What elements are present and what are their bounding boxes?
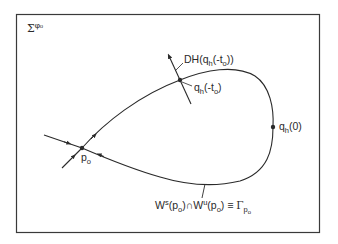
stable-manifold-left-branch xyxy=(44,135,82,148)
dh-label-leader xyxy=(175,63,183,71)
homoclinic-orbit-label: Ws(po)∩Wu(po) ≡ Γpo xyxy=(155,199,251,213)
q-minus-t0-point xyxy=(178,78,182,82)
qminus-label-leader xyxy=(182,82,192,86)
p0-label: po xyxy=(81,151,91,165)
section-symbol: Σ xyxy=(27,22,35,35)
homoclinic-orbit-lower xyxy=(82,127,273,185)
homoclinic-orbit-upper xyxy=(82,69,273,148)
flow-arrow-unstable-lower xyxy=(70,156,74,160)
section-superscript: φ₀ xyxy=(35,21,43,30)
q-zero-point xyxy=(271,125,275,129)
flow-arrow-unstable-upper xyxy=(91,135,95,139)
homoclinic-label-leader xyxy=(202,184,205,198)
p0-point xyxy=(80,146,84,150)
q-zero-label: qh(0) xyxy=(279,120,302,134)
dh-vector-label: DH(qh(-to)) xyxy=(184,53,234,67)
section-label: Σφ₀ xyxy=(27,23,43,36)
q-minus-t0-label: qh(-to) xyxy=(194,81,222,95)
